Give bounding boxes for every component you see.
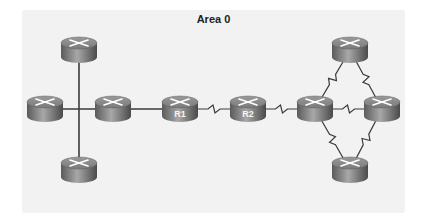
- router-top-left[interactable]: [61, 37, 97, 63]
- router-bottom-right[interactable]: [332, 157, 368, 183]
- router-label: R2: [242, 109, 254, 119]
- router-bottom-left[interactable]: [61, 157, 97, 183]
- router-top-right[interactable]: [332, 37, 368, 63]
- network-topology: R1R2: [0, 0, 427, 220]
- router-hub[interactable]: [297, 96, 333, 122]
- router-r1[interactable]: R1: [162, 96, 198, 122]
- router-label: R1: [174, 109, 186, 119]
- routers-layer: R1R2: [27, 37, 400, 183]
- router-mid-left[interactable]: [95, 96, 131, 122]
- router-left[interactable]: [27, 96, 63, 122]
- router-r2[interactable]: R2: [230, 96, 266, 122]
- router-right[interactable]: [364, 96, 400, 122]
